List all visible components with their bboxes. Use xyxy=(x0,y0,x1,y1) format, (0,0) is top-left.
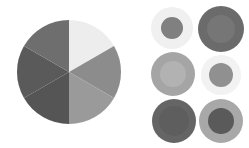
pie-chart xyxy=(16,17,122,129)
swatch-1-inner-circle xyxy=(161,17,183,39)
swatch-4-inner-circle xyxy=(209,63,233,87)
circle-swatch-grid-panel xyxy=(150,6,246,144)
circle-swatch-grid xyxy=(150,6,246,144)
swatch-6-inner-circle xyxy=(208,108,234,134)
pie-wedge-group xyxy=(17,20,121,124)
swatch-5-inner-circle xyxy=(159,106,189,136)
swatch-2-inner-circle xyxy=(207,15,235,43)
circle-swatch-group xyxy=(151,6,244,143)
pie-chart-panel xyxy=(16,17,122,129)
swatch-3-inner-circle xyxy=(160,61,186,87)
figure-root xyxy=(0,0,249,148)
